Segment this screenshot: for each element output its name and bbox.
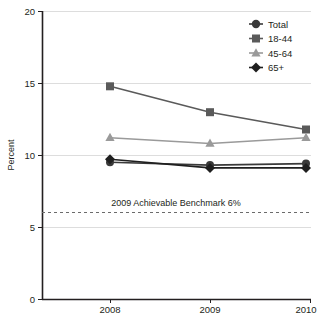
- legend-item-18-44[interactable]: 18-44: [249, 33, 292, 44]
- legend-marker-circle-icon: [252, 20, 260, 28]
- y-axis-title: Percent: [6, 139, 16, 171]
- data-point-45-64-2008: [105, 133, 114, 141]
- data-point-18-44-2010: [302, 126, 310, 134]
- markers-18-44: [106, 82, 310, 133]
- y-tick-label-5: 5: [30, 222, 35, 233]
- legend-label-total: Total: [268, 19, 288, 30]
- y-tick-label-15: 15: [24, 78, 35, 89]
- legend-label-18-44: 18-44: [268, 33, 292, 44]
- y-tick-label-20: 20: [24, 6, 35, 17]
- data-point-18-44-2008: [106, 82, 114, 90]
- data-point-18-44-2009: [206, 108, 214, 116]
- line-chart: 20 15 10 5 0 2008 2009 2010 Percent 2009…: [0, 0, 317, 316]
- series-line-18-44: [110, 86, 306, 129]
- legend-marker-square-icon: [252, 35, 260, 43]
- legend-item-65-plus[interactable]: 65+: [249, 62, 285, 73]
- benchmark-annotation: 2009 Achievable Benchmark 6%: [42, 198, 311, 213]
- y-tick-label-10: 10: [24, 150, 35, 161]
- chart-canvas: 20 15 10 5 0 2008 2009 2010 Percent 2009…: [0, 0, 317, 316]
- legend-label-65-plus: 65+: [268, 62, 285, 73]
- x-tick-label-2009: 2009: [199, 304, 220, 315]
- y-tick-label-0: 0: [30, 294, 35, 305]
- x-tick-label-2010: 2010: [295, 304, 316, 315]
- legend-item-total[interactable]: Total: [249, 19, 288, 30]
- legend-label-45-64: 45-64: [268, 48, 292, 59]
- legend: Total 18-44 45-64 65+: [249, 19, 292, 74]
- legend-item-45-64[interactable]: 45-64: [249, 48, 292, 59]
- x-tick-label-2008: 2008: [99, 304, 120, 315]
- benchmark-label: 2009 Achievable Benchmark 6%: [111, 198, 241, 208]
- data-point-45-64-2010: [301, 133, 310, 141]
- legend-marker-diamond-icon: [251, 63, 261, 73]
